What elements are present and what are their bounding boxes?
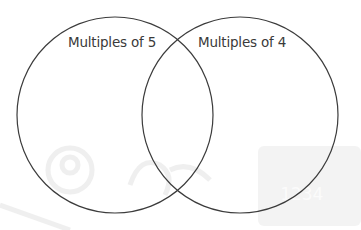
venn-canvas: 1234 [0,0,361,230]
venn-diagram: 1234 Multiples of 5 Multiples of 4 [0,0,361,230]
set-label-multiples-of-4: Multiples of 4 [198,34,286,50]
set-label-multiples-of-5: Multiples of 5 [68,34,156,50]
